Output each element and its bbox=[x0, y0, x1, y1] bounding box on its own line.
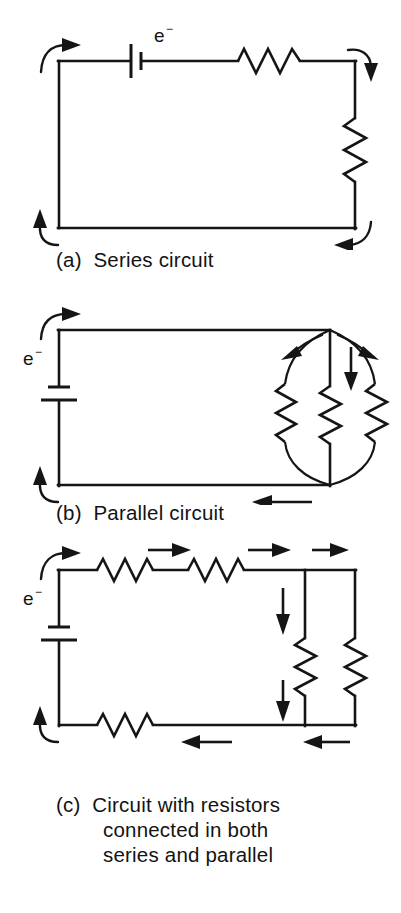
caption-label-a: (a) bbox=[56, 248, 82, 271]
caption-parallel-circuit: (b) Parallel circuit bbox=[0, 500, 401, 525]
current-arrow-center-head-b bbox=[344, 372, 358, 391]
current-arrow-bottom-2-head-c bbox=[303, 735, 322, 749]
current-arrow-top-2-head-c bbox=[272, 543, 291, 557]
current-arrow-inner-lower-head-c bbox=[276, 701, 290, 722]
current-arrow-bottom-left-head-c bbox=[33, 706, 47, 725]
current-arrow-top-3-head-c bbox=[330, 543, 349, 557]
resistor-top-a bbox=[238, 49, 300, 73]
electron-label-c: e bbox=[23, 588, 34, 609]
resistor-center-b bbox=[320, 386, 341, 444]
electron-superscript-b: − bbox=[35, 345, 42, 359]
electron-superscript-c: − bbox=[35, 585, 42, 599]
current-arrow-top-left-head-c bbox=[62, 546, 81, 560]
current-arrow-inner-upper-head-c bbox=[276, 614, 290, 635]
electron-label-b: e bbox=[23, 348, 34, 369]
caption-series-circuit: (a) Series circuit bbox=[0, 247, 401, 272]
caption-text-a: Series circuit bbox=[93, 248, 213, 271]
resistor-left-b bbox=[276, 384, 296, 442]
caption-label-b: (b) bbox=[56, 501, 82, 524]
current-arrow-top-right-head-a bbox=[364, 63, 378, 82]
resistor-inner-parallel-c bbox=[295, 638, 316, 696]
current-arrow-bottom-left-head-b bbox=[33, 466, 47, 485]
resistor-outer-parallel-c bbox=[345, 638, 366, 696]
caption-text-b: Parallel circuit bbox=[93, 501, 224, 524]
resistor-top-left-c bbox=[97, 559, 153, 581]
series-parallel-circuit-svg: e − bbox=[0, 530, 401, 790]
caption-line2-c: connected in both bbox=[56, 817, 401, 842]
resistor-bottom-c bbox=[97, 714, 153, 736]
panel-parallel-circuit: e − (b) Parallel circuit bbox=[0, 290, 401, 540]
series-circuit-svg: e − bbox=[0, 0, 401, 250]
wire-right-branch-lower-b bbox=[330, 442, 375, 485]
caption-line3-c: series and parallel bbox=[56, 842, 401, 867]
caption-series-parallel-circuit: (c) Circuit with resistorsconnected in b… bbox=[0, 792, 401, 867]
current-arrow-top-1-head-c bbox=[172, 543, 191, 557]
panel-series-circuit: e − (a) Series circuit bbox=[0, 0, 401, 290]
current-arrow-bottom-left-head-a bbox=[33, 209, 47, 228]
current-arrow-top-left-head-b bbox=[62, 307, 81, 321]
circuit-figure: e − (a) Series circuit bbox=[0, 0, 401, 913]
panel-series-parallel-circuit: e − (c) Circuit with resistorsconnected … bbox=[0, 530, 401, 913]
wire-left-branch-lower-b bbox=[285, 442, 330, 485]
current-arrow-top-left-head-a bbox=[62, 38, 81, 52]
parallel-circuit-svg: e − bbox=[0, 290, 401, 505]
resistor-top-mid-c bbox=[188, 559, 244, 581]
caption-line1-c: Circuit with resistors bbox=[92, 793, 280, 816]
caption-label-c: (c) bbox=[56, 793, 81, 816]
electron-label-a: e bbox=[154, 25, 165, 46]
current-arrow-bottom-1-head-c bbox=[181, 735, 200, 749]
electron-superscript-a: − bbox=[166, 22, 173, 36]
resistor-right-a bbox=[344, 118, 366, 182]
resistor-right-b bbox=[366, 384, 387, 442]
